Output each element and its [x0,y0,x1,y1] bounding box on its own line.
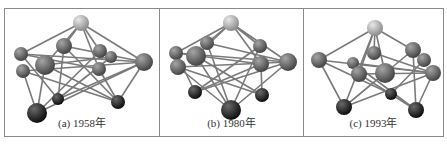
panel-c: (c) 1993年 [304,9,443,136]
figure-frame: (a) 1958年 [4,8,444,137]
caption-c: (c) 1993年 [304,114,443,130]
panel-b: (b) 1980年 [160,9,303,136]
panel-a: (a) 1958年 [5,9,159,136]
caption-a: (a) 1958年 [5,114,159,130]
caption-b: (b) 1980年 [160,114,303,130]
